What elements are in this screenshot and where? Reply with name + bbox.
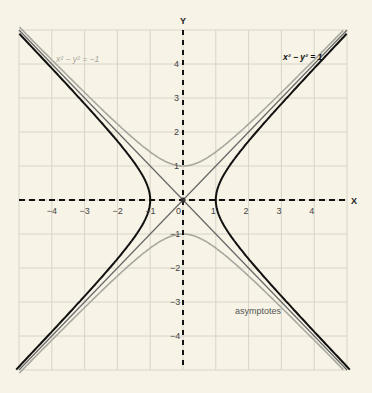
y-tick-label: −3 — [170, 297, 180, 307]
y-tick-label: −4 — [170, 331, 180, 341]
y-axis-label: Y — [180, 16, 186, 26]
x-tick-label: 2 — [244, 206, 249, 216]
x-tick-label: 3 — [276, 206, 281, 216]
y-tick-label: 2 — [174, 127, 179, 137]
x-axis-label: X — [351, 196, 357, 206]
hyperbola-conjugate-bottom — [19, 234, 343, 373]
hyperbola-main-right — [216, 34, 350, 370]
y-tick-label: −2 — [170, 263, 180, 273]
y-tick-label: −1 — [170, 229, 180, 239]
hyperbola-main-left — [16, 34, 150, 370]
x-tick-label: 1 — [211, 206, 216, 216]
hyperbola-diagram: −4−3−2−1012344321−1−2−3−4 X Y x² − y² = … — [0, 0, 372, 393]
x-tick-label: −3 — [80, 206, 90, 216]
x-tick-label: −2 — [112, 206, 122, 216]
origin-point — [181, 198, 186, 203]
y-tick-label: 4 — [174, 59, 179, 69]
label-hyperbola-conjugate: x² − y² = −1 — [55, 54, 99, 64]
x-tick-label: −1 — [145, 206, 155, 216]
y-tick-label: 3 — [174, 93, 179, 103]
x-tick-label: −4 — [47, 206, 57, 216]
label-asymptotes: asymptotes — [235, 306, 282, 316]
label-hyperbola-main: x² − y² = 1 — [282, 52, 322, 62]
x-tick-label: 4 — [309, 206, 314, 216]
y-tick-label: 1 — [174, 161, 179, 171]
hyperbola-conjugate-top — [19, 27, 343, 166]
x-tick-label: 0 — [176, 206, 181, 216]
